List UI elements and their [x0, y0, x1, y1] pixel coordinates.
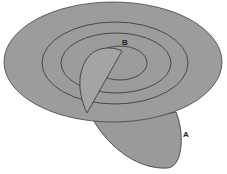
label-b: B	[122, 38, 128, 47]
label-a: A	[183, 130, 189, 139]
diagram-canvas: B A	[0, 0, 227, 174]
contour-diagram: B A	[0, 0, 227, 174]
